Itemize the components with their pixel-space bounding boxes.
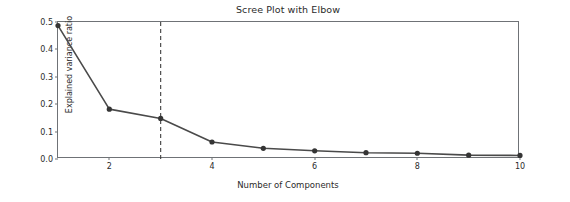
y-tick-label: 0.4 xyxy=(40,45,53,54)
data-point xyxy=(261,146,266,151)
plot-canvas xyxy=(58,22,520,159)
data-point xyxy=(466,153,471,158)
variance-line xyxy=(58,26,520,156)
x-tick-label: 2 xyxy=(107,162,112,171)
y-tick-label: 0.3 xyxy=(40,72,53,81)
y-tick-label: 0.1 xyxy=(40,127,53,136)
x-axis-label: Number of Components xyxy=(57,180,519,190)
data-point-markers xyxy=(55,23,522,158)
data-point xyxy=(158,116,163,121)
y-tick-label: 0.0 xyxy=(40,155,53,164)
y-tick-label: 0.2 xyxy=(40,100,53,109)
data-point xyxy=(209,139,214,144)
plot-area: Explained variance ratio 0.00.10.20.30.4… xyxy=(57,21,519,158)
data-point xyxy=(107,107,112,112)
data-point xyxy=(517,153,522,158)
chart-title: Scree Plot with Elbow xyxy=(57,4,519,15)
data-point xyxy=(55,23,60,28)
y-tick-label: 0.5 xyxy=(40,18,53,27)
x-tick-label: 8 xyxy=(415,162,420,171)
data-point xyxy=(415,151,420,156)
x-tick-label: 6 xyxy=(312,162,317,171)
data-point xyxy=(363,150,368,155)
data-point xyxy=(312,148,317,153)
x-tick-label: 10 xyxy=(515,162,525,171)
scree-plot-figure: Scree Plot with Elbow Explained variance… xyxy=(0,0,570,202)
x-tick-label: 4 xyxy=(209,162,214,171)
